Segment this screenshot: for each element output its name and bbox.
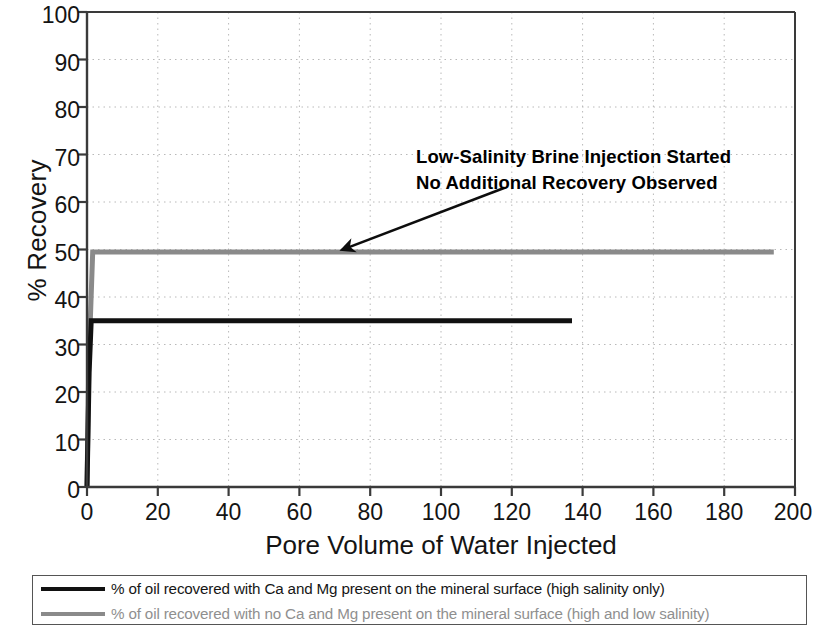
x-tick-label: 0 — [52, 501, 122, 524]
x-tick-label: 40 — [194, 501, 264, 524]
legend-item-with-ca-mg: % of oil recovered with Ca and Mg presen… — [33, 576, 806, 601]
x-tick-label: 200 — [758, 501, 819, 524]
legend-line-swatch-gray — [41, 612, 105, 616]
x-tick-label: 100 — [406, 501, 476, 524]
x-tick-label: 60 — [264, 501, 334, 524]
x-tick-label: 140 — [548, 501, 618, 524]
x-tick-label: 80 — [335, 501, 405, 524]
legend-item-no-ca-mg: % of oil recovered with no Ca and Mg pre… — [33, 601, 806, 626]
legend-line-swatch-black — [41, 587, 105, 591]
x-tick-label: 180 — [689, 501, 759, 524]
legend-label: % of oil recovered with no Ca and Mg pre… — [111, 605, 709, 622]
annotation-line-1: Low-Salinity Brine Injection Started — [416, 144, 731, 170]
chart-legend: % of oil recovered with Ca and Mg presen… — [32, 575, 807, 625]
legend-label: % of oil recovered with Ca and Mg presen… — [111, 580, 665, 597]
x-tick-label: 120 — [477, 501, 547, 524]
chart-annotation: Low-Salinity Brine Injection Started No … — [416, 144, 731, 197]
annotation-line-2: No Additional Recovery Observed — [416, 170, 731, 196]
x-axis-title: Pore Volume of Water Injected — [87, 530, 795, 561]
chart-figure: % Recovery 100 90 80 70 60 50 40 30 20 1… — [0, 0, 819, 634]
x-tick-label: 160 — [618, 501, 688, 524]
x-tick-label: 20 — [123, 501, 193, 524]
